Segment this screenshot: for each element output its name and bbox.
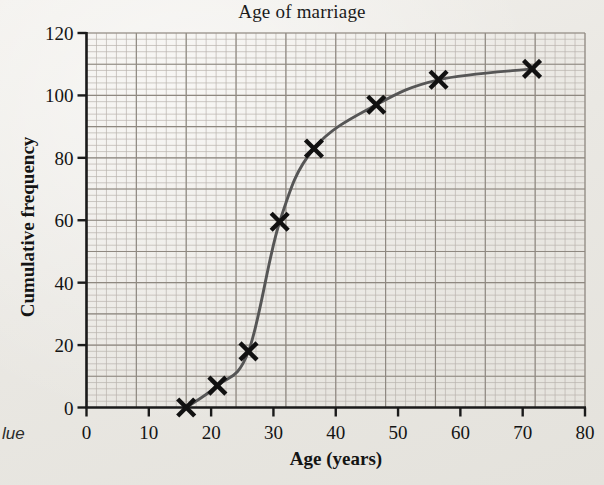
x-tick-label: 20 <box>202 422 221 443</box>
data-point-marker-5 <box>368 96 385 113</box>
y-tick-label: 100 <box>45 85 74 106</box>
plot-area: 02040608010012001020304050607080 <box>0 0 604 485</box>
x-tick-label: 30 <box>264 422 283 443</box>
data-series-line <box>186 69 532 408</box>
x-tick-label: 50 <box>389 422 408 443</box>
x-tick-label: 10 <box>139 422 158 443</box>
x-tick-label: 40 <box>326 422 345 443</box>
x-tick-label: 80 <box>576 422 595 443</box>
chart-figure: Age of marriage Cumulative frequency Age… <box>0 0 604 485</box>
y-tick-label: 80 <box>55 148 74 169</box>
axis-ticks <box>78 33 586 417</box>
data-point-marker-4 <box>305 140 322 157</box>
series-curve <box>186 69 532 408</box>
x-tick-label: 60 <box>451 422 470 443</box>
x-tick-label: 70 <box>513 422 532 443</box>
data-point-marker-1 <box>209 377 226 394</box>
y-tick-label: 0 <box>64 398 74 419</box>
y-tick-label: 20 <box>55 335 74 356</box>
y-tick-label: 120 <box>45 23 74 44</box>
y-tick-label: 60 <box>55 210 74 231</box>
x-tick-label: 0 <box>82 422 92 443</box>
y-tick-label: 40 <box>55 273 74 294</box>
